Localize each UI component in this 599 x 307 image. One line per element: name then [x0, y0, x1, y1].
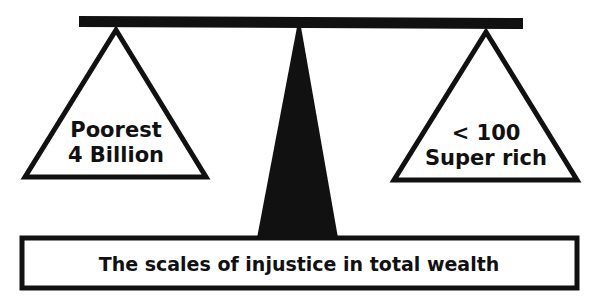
- right-pan: < 100 Super rich: [394, 32, 577, 180]
- scales-of-injustice-diagram: Poorest 4 Billion < 100 Super rich The s…: [0, 0, 599, 307]
- right-pan-label-line2: Super rich: [425, 146, 547, 170]
- left-pan-label-line1: Poorest: [70, 118, 161, 142]
- base-caption: The scales of injustice in total wealth: [99, 253, 500, 275]
- left-pan-label-line2: 4 Billion: [68, 143, 164, 167]
- left-pan: Poorest 4 Billion: [25, 30, 206, 177]
- fulcrum: [257, 27, 338, 238]
- right-pan-label-line1: < 100: [452, 121, 521, 145]
- base-caption-box: The scales of injustice in total wealth: [22, 238, 577, 288]
